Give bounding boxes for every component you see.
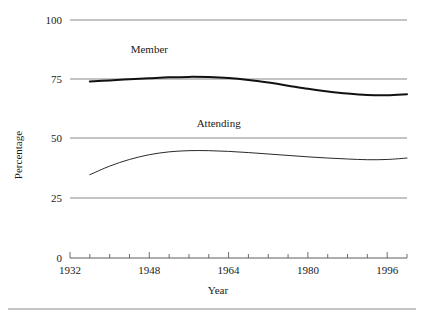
- x-tick-label-1964: 1964: [218, 264, 241, 276]
- y-tick-label-0: 0: [57, 252, 63, 264]
- y-axis-title: Percentage: [12, 131, 24, 179]
- x-axis-tick-labels: 19321948196419801996: [59, 264, 399, 276]
- series-label-attending: Attending: [197, 117, 241, 129]
- series-line-member: [90, 77, 407, 95]
- x-tick-label-1948: 1948: [138, 264, 161, 276]
- x-tick-label-1980: 1980: [297, 264, 320, 276]
- y-axis-tick-labels: 100 75 50 25 0: [46, 14, 63, 264]
- y-tick-label-25: 25: [51, 192, 63, 204]
- x-tick-label-1996: 1996: [376, 264, 399, 276]
- x-tick-label-1932: 1932: [59, 264, 81, 276]
- gridlines: [70, 20, 407, 198]
- series-line-attending: [90, 151, 407, 175]
- line-chart-svg: 100 75 50 25 0 19321948196419801996 Year…: [0, 0, 424, 322]
- x-axis: [70, 252, 407, 258]
- y-tick-label-50: 50: [51, 132, 63, 144]
- x-axis-title: Year: [208, 284, 229, 296]
- chart-figure: 100 75 50 25 0 19321948196419801996 Year…: [0, 0, 424, 322]
- y-tick-label-75: 75: [51, 73, 63, 85]
- x-axis-tickmarks: [70, 252, 407, 258]
- series-label-member: Member: [131, 43, 169, 55]
- y-tick-label-100: 100: [46, 14, 63, 26]
